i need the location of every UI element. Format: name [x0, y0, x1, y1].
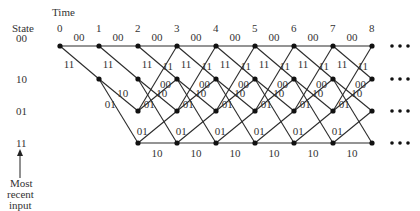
ellipsis-dot-icon — [398, 77, 402, 81]
edge-label-s11_to_s11: 10 — [152, 147, 164, 159]
edge-label-s11_to_s01: 01 — [254, 125, 265, 137]
edge-label-s10_to_s11: 01 — [222, 98, 233, 110]
time-tick: 7 — [330, 22, 336, 34]
trellis-node — [174, 43, 179, 48]
trellis-node — [213, 108, 218, 113]
edge-label-s01_to_s00: 11 — [318, 60, 329, 72]
edge-label-s10_to_s11: 01 — [144, 98, 155, 110]
trellis-node — [135, 140, 140, 145]
arrow-head-icon — [17, 149, 23, 156]
time-ticks: 012345678 — [57, 22, 375, 34]
ellipsis-dot-icon — [390, 109, 394, 113]
most-recent-input-annotation: Most recent input — [7, 149, 34, 211]
trellis-node — [174, 108, 179, 113]
time-tick: 0 — [57, 22, 63, 34]
edge-label-s01_to_s10: 00 — [277, 78, 289, 90]
trellis-node — [291, 43, 296, 48]
edge-label-s00_to_s10: 11 — [64, 58, 75, 70]
trellis-node — [135, 76, 140, 81]
edge-label-s00_to_s00: 00 — [308, 31, 320, 43]
trellis-node — [330, 43, 335, 48]
trellis-node — [369, 140, 374, 145]
trellis-node — [330, 76, 335, 81]
time-tick: 3 — [174, 22, 180, 34]
edge-label-s10_to_s11: 01 — [300, 98, 311, 110]
edge-label-s01_to_s10: 00 — [238, 78, 250, 90]
edge-label-s00_to_s00: 00 — [191, 31, 203, 43]
edge-label-s00_to_s00: 00 — [113, 31, 125, 43]
edge-label-s01_to_s10: 00 — [199, 78, 211, 90]
ellipsis-dot-icon — [406, 141, 410, 145]
trellis-node — [369, 76, 374, 81]
state-label-11: 11 — [16, 137, 27, 149]
continuation-dots — [390, 44, 410, 145]
edge-label-s11_to_s11: 10 — [269, 147, 281, 159]
trellis-node — [213, 43, 218, 48]
ellipsis-dot-icon — [390, 44, 394, 48]
ellipsis-dot-icon — [390, 77, 394, 81]
edge-label-s00_to_s10: 11 — [298, 58, 309, 70]
trellis-node — [213, 76, 218, 81]
edge-label-s10_to_s11: 01 — [183, 98, 194, 110]
edge-label-s00_to_s10: 11 — [142, 58, 153, 70]
ellipsis-dot-icon — [406, 44, 410, 48]
ellipsis-dot-icon — [398, 109, 402, 113]
trellis-node — [252, 76, 257, 81]
state-label-01: 01 — [16, 105, 27, 117]
edge-label-s01_to_s10: 00 — [316, 78, 328, 90]
trellis-node — [57, 43, 62, 48]
time-tick: 6 — [291, 22, 297, 34]
edge-label-s01_to_s00: 11 — [201, 60, 212, 72]
trellis-node — [135, 108, 140, 113]
trellis-node — [174, 76, 179, 81]
edge-label-s00_to_s00: 00 — [152, 31, 164, 43]
state-label-10: 10 — [16, 73, 28, 85]
edge-label-s11_to_s11: 10 — [230, 147, 242, 159]
trellis-node — [174, 140, 179, 145]
edge-label-s11_to_s11: 10 — [347, 147, 359, 159]
edge-label-s00_to_s10: 11 — [181, 58, 192, 70]
edge-label-s00_to_s00: 00 — [230, 31, 242, 43]
trellis-node — [330, 140, 335, 145]
time-tick: 4 — [213, 22, 219, 34]
edge-label-s10_to_s11: 01 — [339, 98, 350, 110]
trellis-node — [252, 108, 257, 113]
trellis-node — [330, 108, 335, 113]
trellis-node — [135, 43, 140, 48]
trellis-node — [291, 108, 296, 113]
edge-label-s10_to_s11: 01 — [261, 98, 272, 110]
edge-label-s11_to_s01: 01 — [332, 125, 343, 137]
edge-label-s11_to_s01: 01 — [293, 125, 304, 137]
edge-label-s00_to_s00: 00 — [269, 31, 281, 43]
trellis-node — [96, 76, 101, 81]
edge-label-s01_to_s10: 00 — [160, 78, 172, 90]
trellis-node — [252, 140, 257, 145]
annotation-line-3: input — [9, 199, 32, 211]
trellis-node — [291, 76, 296, 81]
edge-label-s10_to_s01: 10 — [117, 87, 128, 99]
time-tick: 1 — [96, 22, 102, 34]
time-axis-label: Time — [52, 6, 75, 18]
time-tick: 2 — [135, 22, 141, 34]
edge-label-s00_to_s00: 00 — [74, 31, 86, 43]
trellis-node — [213, 140, 218, 145]
edge-label-s11_to_s01: 01 — [137, 125, 148, 137]
edge-label-s11_to_s01: 01 — [176, 125, 187, 137]
edge-label-s01_to_s10: 00 — [355, 78, 367, 90]
edge-label-s11_to_s11: 10 — [308, 147, 320, 159]
edge-label-s00_to_s10: 11 — [103, 58, 114, 70]
edge-label-s01_to_s00: 11 — [240, 60, 251, 72]
edge-label-s01_to_s00: 11 — [279, 60, 290, 72]
trellis-node — [369, 108, 374, 113]
edge-label-s00_to_s00: 00 — [347, 31, 359, 43]
time-tick: 8 — [369, 22, 375, 34]
trellis-node — [252, 43, 257, 48]
edge-label-s11_to_s01: 01 — [215, 125, 226, 137]
edge-label-s10_to_s11: 01 — [105, 98, 116, 110]
state-labels: 00100111 — [16, 32, 28, 149]
edge-label-s01_to_s00: 11 — [162, 60, 173, 72]
trellis-node — [291, 140, 296, 145]
edge-label-s01_to_s00: 11 — [357, 60, 368, 72]
ellipsis-dot-icon — [406, 109, 410, 113]
trellis-node — [369, 43, 374, 48]
